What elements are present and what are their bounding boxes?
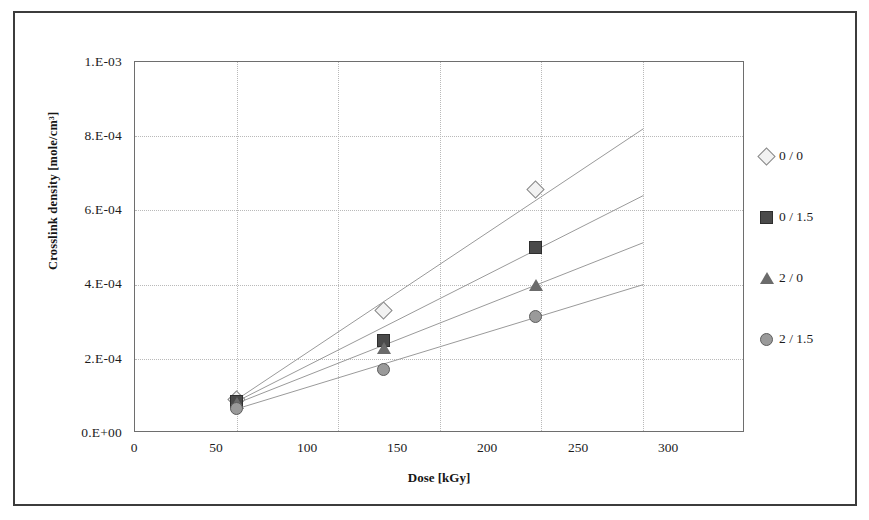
y-axis-label: Crosslink density [mole/cm³] — [46, 70, 61, 270]
chart-figure: Crosslink density [mole/cm³] 1.E-03 8.E-… — [0, 0, 869, 520]
plot-area — [134, 61, 744, 432]
filled-circle-icon — [377, 363, 390, 376]
x-tick-label-50: 50 — [186, 440, 246, 456]
x-tick-label-300: 300 — [638, 440, 698, 456]
legend-label-2-0: 2 / 0 — [779, 270, 803, 286]
x-axis-label: Dose [kGy] — [134, 470, 744, 486]
data-point-2-1-5-122 — [377, 363, 390, 376]
data-point-0-1-5-197 — [529, 241, 542, 254]
chart-legend: 0 / 0 0 / 1.5 2 / 0 2 / 1.5 — [760, 150, 855, 394]
y-tick-label-6e-04: 6.E-04 — [60, 202, 122, 218]
x-tick-label-200: 200 — [457, 440, 517, 456]
open-diamond-icon — [374, 301, 392, 319]
data-point-0-0-122 — [377, 304, 390, 317]
filled-triangle-icon — [760, 272, 774, 286]
open-diamond-icon — [526, 181, 544, 199]
x-tick-label-250: 250 — [548, 440, 608, 456]
y-tick-label-2e-04: 2.E-04 — [60, 351, 122, 367]
legend-item-2-0[interactable]: 2 / 0 — [760, 272, 855, 333]
legend-item-2-1p5[interactable]: 2 / 1.5 — [760, 333, 855, 394]
data-point-2-1-5-50 — [230, 402, 243, 415]
data-point-2-1-5-197 — [529, 310, 542, 323]
legend-label-0-0: 0 / 0 — [779, 148, 803, 164]
open-diamond-icon — [760, 150, 774, 164]
y-tick-label-4e-04: 4.E-04 — [60, 276, 122, 292]
filled-square-icon — [760, 211, 774, 225]
filled-square-icon — [529, 241, 542, 254]
y-tick-label-0e00: 0.E+00 — [60, 425, 122, 441]
data-point-0-0-197 — [529, 183, 542, 196]
filled-circle-icon — [230, 402, 243, 415]
filled-triangle-icon — [529, 279, 543, 291]
x-tick-label-150: 150 — [367, 440, 427, 456]
legend-label-0-1p5: 0 / 1.5 — [779, 209, 813, 225]
y-tick-label-1e-03: 1.E-03 — [60, 54, 122, 70]
legend-item-0-1p5[interactable]: 0 / 1.5 — [760, 211, 855, 272]
data-point-2-0-197 — [529, 279, 543, 291]
legend-label-2-1p5: 2 / 1.5 — [779, 331, 813, 347]
y-axis-label-wrapper: Crosslink density [mole/cm³] — [26, 120, 46, 360]
filled-circle-icon — [760, 333, 774, 347]
x-tick-label-0: 0 — [104, 440, 164, 456]
legend-item-0-0[interactable]: 0 / 0 — [760, 150, 855, 211]
filled-triangle-icon — [377, 342, 391, 354]
filled-circle-icon — [529, 310, 542, 323]
x-tick-label-100: 100 — [277, 440, 337, 456]
y-tick-label-8e-04: 8.E-04 — [60, 128, 122, 144]
data-points-layer — [135, 62, 743, 431]
data-point-2-0-122 — [377, 342, 391, 354]
